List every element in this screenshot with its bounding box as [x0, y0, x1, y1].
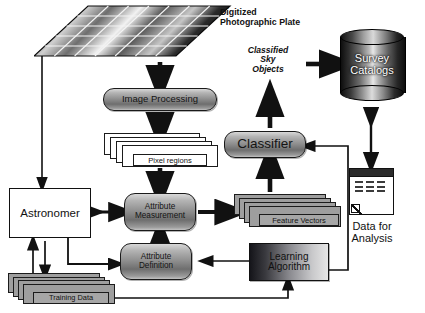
survey-catalogs-line1: Survey: [355, 52, 389, 64]
doc-text-row: [355, 186, 389, 188]
node-classifier[interactable]: Classifier: [224, 131, 306, 158]
doc-dash: [377, 186, 385, 188]
doc-text-row: [355, 181, 389, 183]
doc-text-row: [355, 190, 389, 192]
label-data-for-analysis: Data for Analysis: [336, 220, 408, 244]
node-pixel-regions[interactable]: Pixel regions: [104, 133, 220, 169]
doc-title-bar: [350, 169, 393, 177]
node-attribute-definition-label: Attribute Definition: [139, 253, 173, 270]
plate-label: Digitized Photographic Plate: [220, 8, 345, 27]
pixel-regions-label-box: Pixel regions: [133, 154, 207, 166]
arrow-astronomer-to-attribute-definition: [68, 238, 118, 264]
node-image-processing-label: Image Processing: [122, 94, 198, 104]
node-image-processing[interactable]: Image Processing: [103, 88, 217, 111]
attribute-measurement-line1: Attribute: [145, 202, 176, 211]
data-for-analysis-icon[interactable]: [349, 168, 394, 215]
classified-line3: Objects: [252, 64, 284, 74]
feature-vectors-label: Feature Vectors: [272, 216, 326, 225]
attribute-definition-line2: Definition: [139, 261, 173, 270]
node-feature-vectors[interactable]: Feature Vectors: [234, 194, 346, 228]
node-classifier-label: Classifier: [237, 137, 293, 151]
attribute-definition-line1: Attribute: [141, 252, 172, 261]
learning-algorithm-line2: Algorithm: [268, 261, 310, 272]
node-astronomer-label: Astronomer: [20, 207, 79, 219]
doc-resize-corner-icon: [351, 204, 360, 213]
node-attribute-measurement[interactable]: Attribute Measurement: [124, 193, 196, 231]
learning-algorithm-line1: Learning: [270, 251, 309, 262]
node-survey-catalogs[interactable]: Survey Catalogs: [340, 29, 404, 101]
pixel-regions-label: Pixel regions: [148, 156, 191, 165]
survey-catalogs-line2: Catalogs: [350, 64, 393, 76]
label-classified-sky-objects: Classified Sky Objects: [232, 46, 304, 74]
digitized-photographic-plate: [34, 4, 234, 64]
doc-dash: [377, 181, 385, 183]
node-learning-algorithm-label: Learning Algorithm: [268, 252, 310, 273]
data-for-analysis-line2: Analysis: [352, 232, 393, 244]
plate-label-line1: Digitized: [220, 7, 257, 17]
data-for-analysis-line1: Data for: [352, 220, 391, 232]
node-attribute-definition[interactable]: Attribute Definition: [120, 243, 192, 280]
node-astronomer[interactable]: Astronomer: [9, 188, 91, 238]
doc-text-rows: [355, 181, 389, 195]
doc-dash: [366, 186, 374, 188]
attribute-measurement-line2: Measurement: [135, 211, 185, 220]
doc-dash: [366, 190, 374, 192]
feature-vectors-label-box: Feature Vectors: [259, 214, 339, 226]
node-attribute-measurement-label: Attribute Measurement: [135, 203, 185, 220]
training-data-label-box: Training Data: [33, 292, 109, 304]
plate-label-line2: Photographic Plate: [220, 17, 300, 27]
doc-dash: [366, 181, 374, 183]
diagram-canvas: Digitized Photographic Plate Image Proce…: [0, 0, 425, 313]
doc-dash: [377, 190, 385, 192]
doc-dash: [355, 186, 363, 188]
training-data-label: Training Data: [49, 293, 93, 302]
doc-dash: [355, 190, 363, 192]
doc-dash: [355, 181, 363, 183]
node-training-data[interactable]: Training Data: [8, 273, 120, 307]
arrow-training-data-to-learning-algorithm: [110, 281, 288, 298]
node-survey-catalogs-label: Survey Catalogs: [340, 29, 404, 101]
node-learning-algorithm[interactable]: Learning Algorithm: [249, 243, 329, 281]
